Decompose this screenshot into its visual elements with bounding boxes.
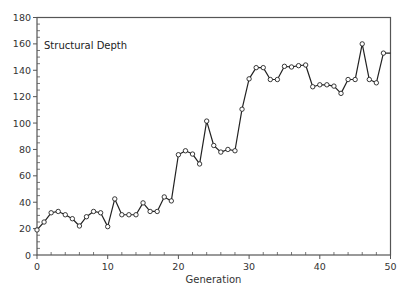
- data-point-marker: [247, 77, 251, 81]
- data-series: [35, 42, 391, 232]
- data-point-marker: [311, 85, 315, 89]
- y-tick-label: 40: [19, 197, 31, 208]
- data-point-marker: [77, 224, 81, 228]
- x-tick-label: 50: [384, 261, 396, 272]
- data-point-marker: [303, 63, 307, 67]
- data-point-marker: [49, 211, 53, 215]
- data-point-marker: [254, 65, 258, 69]
- data-point-marker: [113, 197, 117, 201]
- y-tick-label: 180: [13, 12, 31, 23]
- data-point-marker: [106, 224, 110, 228]
- data-point-marker: [339, 91, 343, 95]
- data-point-marker: [35, 228, 39, 232]
- data-point-marker: [296, 63, 300, 67]
- y-tick-label: 100: [13, 118, 31, 129]
- plot-frame: [37, 18, 391, 256]
- data-point-marker: [289, 65, 293, 69]
- data-point-marker: [346, 77, 350, 81]
- y-tick-label: 0: [25, 250, 31, 261]
- data-point-marker: [360, 42, 364, 46]
- data-point-marker: [374, 81, 378, 85]
- data-point-marker: [318, 83, 322, 87]
- y-tick-label: 20: [19, 223, 31, 234]
- data-point-marker: [353, 77, 357, 81]
- data-point-marker: [42, 220, 46, 224]
- data-point-marker: [197, 162, 201, 166]
- data-point-marker: [332, 84, 336, 88]
- line-chart: 020406080100120140160180 01020304050 Str…: [0, 0, 406, 294]
- x-tick-label: 20: [172, 261, 184, 272]
- data-point-marker: [155, 209, 159, 213]
- data-point-marker: [381, 51, 385, 55]
- data-point-marker: [169, 199, 173, 203]
- y-tick-label: 60: [19, 170, 31, 181]
- data-point-marker: [190, 152, 194, 156]
- y-tick-label: 160: [13, 38, 31, 49]
- data-point-marker: [204, 119, 208, 123]
- data-point-marker: [120, 213, 124, 217]
- data-point-marker: [233, 149, 237, 153]
- data-point-marker: [282, 64, 286, 68]
- data-point-marker: [183, 149, 187, 153]
- data-point-marker: [162, 195, 166, 199]
- data-point-marker: [325, 83, 329, 87]
- y-tick-label: 140: [13, 65, 31, 76]
- x-tick-label: 30: [243, 261, 255, 272]
- data-point-marker: [70, 217, 74, 221]
- y-tick-label: 80: [19, 144, 31, 155]
- data-point-marker: [134, 213, 138, 217]
- data-point-marker: [268, 77, 272, 81]
- data-point-marker: [212, 143, 216, 147]
- data-point-marker: [240, 107, 244, 111]
- data-point-marker: [127, 213, 131, 217]
- x-tick-label: 40: [314, 261, 326, 272]
- chart-title: Structural Depth: [44, 40, 127, 51]
- data-point-marker: [275, 77, 279, 81]
- x-axis-title: Generation: [186, 274, 242, 285]
- data-point-marker: [367, 77, 371, 81]
- plot-border: [37, 18, 391, 256]
- data-point-marker: [261, 65, 265, 69]
- y-axis: 020406080100120140160180: [13, 12, 40, 261]
- data-point-marker: [84, 215, 88, 219]
- data-point-marker: [98, 211, 102, 215]
- y-tick-label: 120: [13, 91, 31, 102]
- data-point-marker: [63, 213, 67, 217]
- x-tick-label: 0: [34, 261, 40, 272]
- data-point-marker: [219, 150, 223, 154]
- data-point-marker: [148, 209, 152, 213]
- data-point-marker: [226, 147, 230, 151]
- data-point-marker: [176, 153, 180, 157]
- data-point-marker: [56, 209, 60, 213]
- data-point-marker: [91, 209, 95, 213]
- series-line: [37, 44, 391, 230]
- data-point-marker: [141, 201, 145, 205]
- x-tick-label: 10: [102, 261, 114, 272]
